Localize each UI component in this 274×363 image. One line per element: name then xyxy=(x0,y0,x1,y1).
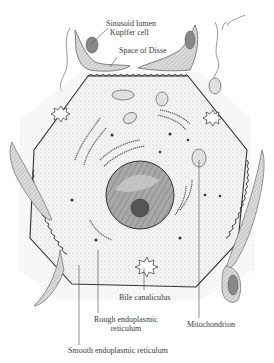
bile-canaliculus-left xyxy=(51,106,70,122)
artist-signature xyxy=(222,15,245,30)
label-sinusoid-lumen: Sinusoid lumen xyxy=(106,19,156,28)
label-bile-canaliculus: Bile canaliculus xyxy=(119,293,170,302)
bile-canaliculus-right xyxy=(203,110,222,126)
label-rough-er-line2: reticulum xyxy=(86,324,166,333)
label-rough-er-line1: Rough endoplasmic xyxy=(86,315,166,324)
label-rough-er: Rough endoplasmic reticulum xyxy=(86,315,166,333)
nucleolus xyxy=(131,199,149,217)
nucleus xyxy=(106,161,174,229)
label-mitochondrion: Mitochondrion xyxy=(187,320,235,329)
label-space-of-disse: Space of Disse xyxy=(119,46,167,55)
label-smooth-er: Smooth endoplasmic reticulum xyxy=(68,346,168,355)
label-kupffer-cell: Kupffer cell xyxy=(110,28,149,37)
